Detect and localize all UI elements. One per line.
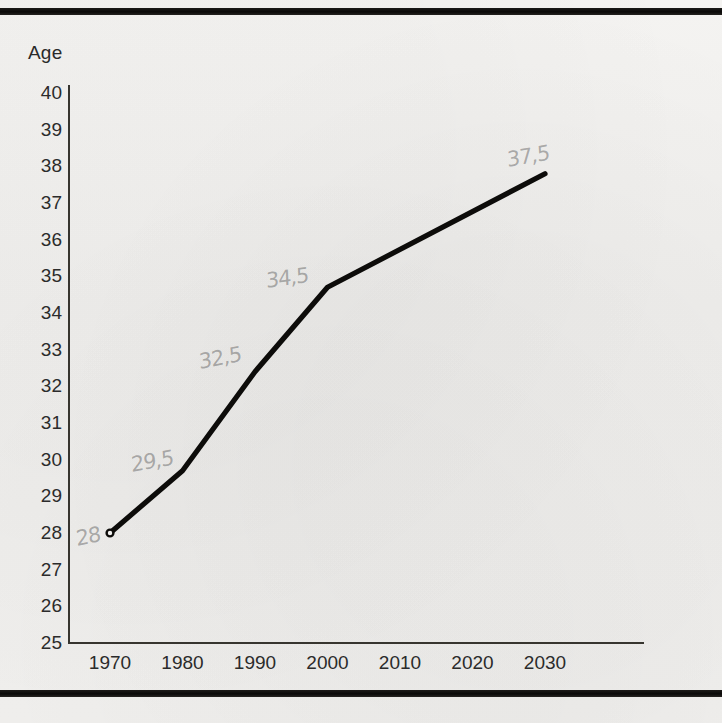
chart-page: Age 40393837363534333231302928272625 197… (0, 0, 722, 723)
data-series-line (0, 0, 722, 723)
series-start-marker (107, 530, 114, 537)
age-line-path (110, 174, 545, 533)
handwritten-annotation-28: 28 (75, 522, 102, 551)
frame-rule-bottom (0, 690, 722, 697)
plot-area: 40393837363534333231302928272625 1970198… (0, 0, 722, 723)
